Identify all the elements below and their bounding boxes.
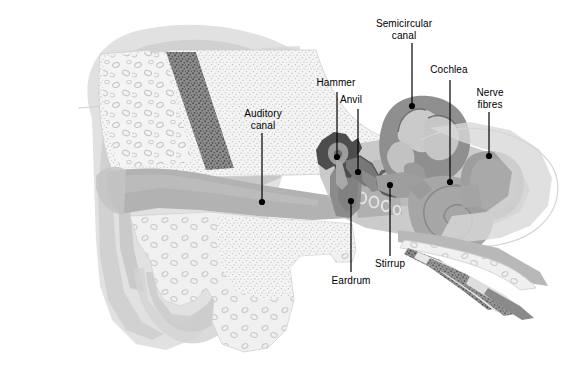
label-stirrup: Stirrup [368, 258, 412, 270]
dot-cochlea [447, 179, 453, 185]
label-hammer: Hammer [310, 77, 362, 89]
eustachian-bands-group [398, 230, 548, 320]
dot-eardrum [348, 198, 354, 204]
ear-anatomy-figure: Auditory canal Hammer Anvil Semicircular… [0, 0, 565, 367]
label-nerve-fibres: Nerve fibres [469, 87, 511, 110]
dot-auditory-canal [259, 199, 265, 205]
ear-diagram-canvas [0, 0, 565, 367]
dot-nerve-fibres [486, 153, 492, 159]
label-eardrum: Eardrum [325, 275, 377, 287]
dot-stirrup [387, 182, 393, 188]
label-auditory-canal: Auditory canal [234, 108, 292, 131]
dot-hammer [334, 154, 340, 160]
label-semicircular-canal: Semicircular canal [372, 18, 436, 41]
label-anvil: Anvil [334, 94, 368, 106]
label-cochlea: Cochlea [424, 64, 474, 76]
dot-semicircular-canal [409, 103, 415, 109]
dot-anvil [355, 169, 361, 175]
